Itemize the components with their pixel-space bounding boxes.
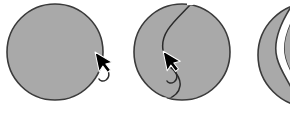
stroke-exit-gap: [160, 98, 167, 102]
figure-container: Cursor begins the cut at the shape edge …: [0, 0, 290, 119]
shape-circle[interactable]: [7, 4, 103, 100]
split-gesture-illustration: [0, 0, 290, 119]
stroke-entry-gap: [187, 2, 194, 6]
shape-circle[interactable]: [134, 4, 230, 100]
